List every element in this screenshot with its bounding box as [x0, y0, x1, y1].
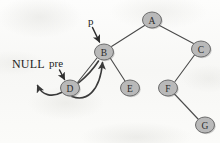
- p-pointer-label: p: [88, 16, 94, 27]
- edge-c-f: [175, 55, 195, 82]
- node-f[interactable]: F: [159, 80, 179, 97]
- node-b[interactable]: B: [95, 44, 115, 61]
- null-label: NULL: [12, 58, 45, 70]
- node-e-label: E: [127, 84, 133, 94]
- pointer-arrows: [60, 28, 100, 80]
- node-g-label: G: [202, 121, 209, 131]
- node-b-label: B: [101, 48, 107, 58]
- edge-a-b: [112, 26, 145, 47]
- pre-pointer-arrow: [60, 70, 65, 80]
- node-d-label: D: [67, 84, 74, 94]
- node-f-label: F: [165, 84, 170, 94]
- edge-b-d: [78, 58, 98, 83]
- edge-a-c: [160, 26, 194, 44]
- node-g[interactable]: G: [196, 117, 216, 134]
- node-d[interactable]: D: [61, 80, 81, 97]
- pre-pointer-label: pre: [49, 58, 63, 69]
- node-a-label: A: [149, 16, 156, 26]
- node-a[interactable]: A: [143, 12, 163, 29]
- edge-f-g: [175, 94, 199, 120]
- thread-d-to-b-chord: [79, 61, 99, 83]
- p-pointer-arrow: [93, 28, 100, 43]
- tree-graph: A B C D E F G: [0, 0, 220, 143]
- node-c-label: C: [198, 45, 204, 55]
- node-e[interactable]: E: [121, 80, 141, 97]
- tree-edges: [78, 26, 199, 120]
- edge-b-e: [111, 59, 126, 82]
- binary-tree-figure: A B C D E F G: [0, 0, 220, 143]
- thread-d-to-null-arc: [38, 86, 62, 96]
